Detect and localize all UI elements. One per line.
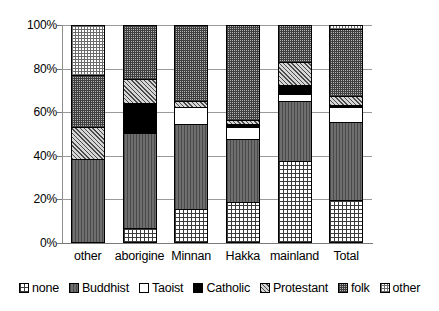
- legend-label: folk: [351, 281, 370, 295]
- legend-label: Taoist: [152, 281, 183, 295]
- bar-segment-folk[interactable]: [124, 26, 156, 80]
- legend-swatch-other-icon: [380, 283, 390, 293]
- legend-label: Buddhist: [82, 281, 129, 295]
- bar-segment-buddhist[interactable]: [227, 140, 259, 203]
- gridline: [62, 199, 372, 200]
- y-axis-tick: [57, 69, 62, 70]
- bar-segment-taoist[interactable]: [227, 128, 259, 141]
- bar-segment-buddhist[interactable]: [330, 123, 362, 201]
- plot-area: [62, 25, 372, 243]
- legend-item-protestant[interactable]: Protestant: [260, 281, 328, 295]
- bar-segment-folk[interactable]: [330, 30, 362, 97]
- legend-swatch-none-icon: [19, 283, 29, 293]
- bar-segment-none[interactable]: [279, 162, 311, 242]
- y-axis-tick: [57, 25, 62, 26]
- gridline: [62, 156, 372, 157]
- y-axis-tick: [57, 243, 62, 244]
- bar-segment-none[interactable]: [330, 201, 362, 242]
- bar-segment-catholic[interactable]: [279, 86, 311, 95]
- bar-segment-catholic[interactable]: [227, 125, 259, 127]
- legend-swatch-folk-icon: [338, 283, 348, 293]
- bar-segment-taoist[interactable]: [279, 95, 311, 101]
- legend-label: none: [32, 281, 59, 295]
- bar-segment-buddhist[interactable]: [175, 125, 207, 209]
- bar-segment-none[interactable]: [227, 203, 259, 242]
- bar-segment-buddhist[interactable]: [279, 102, 311, 162]
- gridline: [62, 69, 372, 70]
- bar-aborigine[interactable]: [123, 25, 157, 243]
- bar-segment-protestant[interactable]: [124, 80, 156, 104]
- legend-swatch-protestant-icon: [260, 283, 270, 293]
- legend-label: Protestant: [273, 281, 328, 295]
- chart-legend: noneBuddhistTaoistCatholicProtestantfolk…: [0, 281, 439, 295]
- legend-swatch-catholic-icon: [193, 283, 203, 293]
- y-axis-tick-label: 40%: [11, 150, 57, 162]
- y-axis-tick-group: 80%: [0, 63, 57, 75]
- y-axis-tick-label: 20%: [11, 193, 57, 205]
- legend-swatch-taoist-icon: [139, 283, 149, 293]
- legend-swatch-buddhist-icon: [69, 283, 79, 293]
- y-axis-tick-group: 0%: [0, 237, 57, 249]
- stacked-bar-chart: otheraborigineMinnanHakkamainlandTotal n…: [0, 0, 439, 311]
- bar-total[interactable]: [329, 25, 363, 243]
- y-axis-tick: [57, 156, 62, 157]
- y-axis-tick-group: 100%: [0, 19, 57, 31]
- bar-segment-folk[interactable]: [279, 26, 311, 63]
- y-axis-tick-group: 40%: [0, 150, 57, 162]
- bar-segment-other[interactable]: [330, 26, 362, 30]
- x-axis-label-total: Total: [320, 249, 372, 263]
- bar-segment-folk[interactable]: [72, 76, 104, 128]
- y-axis-tick-group: 20%: [0, 193, 57, 205]
- bar-minnan[interactable]: [174, 25, 208, 243]
- bar-segment-catholic[interactable]: [330, 106, 362, 108]
- bar-hakka[interactable]: [226, 25, 260, 243]
- gridline: [62, 25, 372, 26]
- x-axis-label-mainland: mainland: [269, 249, 321, 263]
- bar-segment-buddhist[interactable]: [124, 134, 156, 229]
- bar-segment-other[interactable]: [72, 26, 104, 76]
- legend-item-none[interactable]: none: [19, 281, 59, 295]
- legend-item-taoist[interactable]: Taoist: [139, 281, 183, 295]
- gridline: [62, 112, 372, 113]
- bar-segment-none[interactable]: [124, 229, 156, 242]
- legend-label: other: [393, 281, 421, 295]
- bar-other[interactable]: [71, 25, 105, 243]
- bar-segment-none[interactable]: [175, 210, 207, 242]
- y-axis-tick-label: 0%: [11, 237, 57, 249]
- legend-label: Catholic: [206, 281, 250, 295]
- x-axis-label-aborigine: aborigine: [114, 249, 166, 263]
- legend-item-folk[interactable]: folk: [338, 281, 370, 295]
- y-axis-tick-group: 60%: [0, 106, 57, 118]
- y-axis-tick-label: 80%: [11, 63, 57, 75]
- y-axis-tick: [57, 199, 62, 200]
- bar-segment-protestant[interactable]: [330, 97, 362, 106]
- bar-segment-buddhist[interactable]: [72, 160, 104, 242]
- bar-mainland[interactable]: [278, 25, 312, 243]
- legend-item-buddhist[interactable]: Buddhist: [69, 281, 129, 295]
- legend-item-other[interactable]: other: [380, 281, 421, 295]
- y-axis-tick: [57, 112, 62, 113]
- x-axis-label-minnan: Minnan: [165, 249, 217, 263]
- x-axis-label-hakka: Hakka: [217, 249, 269, 263]
- bar-segment-protestant[interactable]: [279, 63, 311, 87]
- bar-segment-catholic[interactable]: [124, 104, 156, 134]
- x-axis-label-other: other: [62, 249, 114, 263]
- y-axis-tick-label: 100%: [11, 19, 57, 31]
- y-axis-tick-label: 60%: [11, 106, 57, 118]
- legend-item-catholic[interactable]: Catholic: [193, 281, 250, 295]
- bar-segment-protestant[interactable]: [175, 102, 207, 108]
- bar-segment-folk[interactable]: [227, 26, 259, 121]
- bar-segment-protestant[interactable]: [72, 128, 104, 160]
- bar-segment-folk[interactable]: [175, 26, 207, 102]
- bar-segment-protestant[interactable]: [227, 121, 259, 125]
- bar-segment-taoist[interactable]: [330, 108, 362, 123]
- bar-segment-taoist[interactable]: [175, 108, 207, 125]
- x-axis-line: [62, 243, 373, 244]
